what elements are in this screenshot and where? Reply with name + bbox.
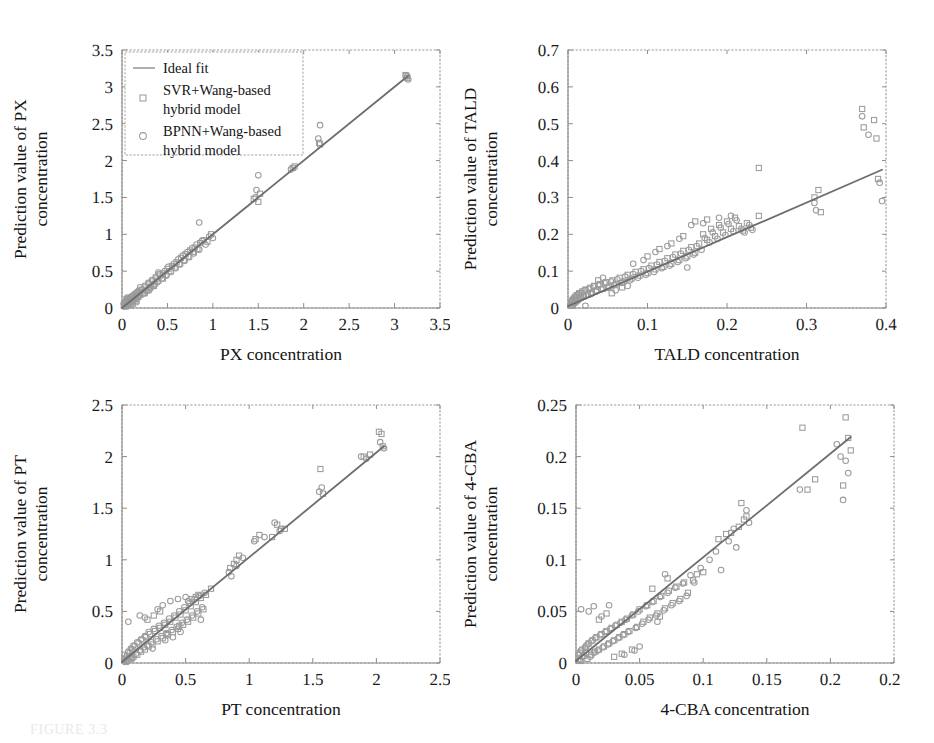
y-tick-label: 0.5 [92,602,113,621]
x-tick-label: 1 [209,315,218,334]
x-tick-label: 0.5 [157,315,178,334]
data-point [691,580,697,586]
data-point [716,215,722,221]
axis-lines [568,50,886,308]
data-point [841,483,846,488]
data-point [591,603,597,609]
y-axis-title-line: Prediction value of PX [10,99,30,259]
y-tick-label: 0.15 [537,499,567,518]
y-tick-label: 0.25 [537,396,567,415]
data-point [646,617,652,623]
y-tick-label: 1.5 [92,499,113,518]
x-tick-label: 0.5 [175,670,196,689]
y-tick-label: 2 [105,448,114,467]
data-point [317,122,323,128]
y-tick-label: 0.1 [538,262,559,281]
data-point [319,485,325,491]
scatter-plot-4cba: 00.050.10.150.20.2500.050.10.150.20.254-… [450,375,900,730]
y-tick-label: 0.6 [538,78,559,97]
y-axis-title-line: concentration [31,131,51,226]
data-point [199,604,205,610]
data-point [812,200,818,206]
data-point [838,454,844,460]
y-tick-label: 0.5 [538,115,559,134]
x-tick-label: 2.5 [429,670,450,689]
data-point [240,555,246,561]
data-point [861,125,866,130]
data-point [845,470,851,476]
ideal-fit-line [576,437,851,661]
data-point [653,613,659,619]
x-tick-label: 0.1 [693,670,714,689]
legend-label-ideal-fit: Ideal fit [163,60,209,76]
data-point [175,596,181,602]
y-tick-label: 0.2 [538,225,559,244]
data-point [733,545,739,551]
data-point [198,617,204,623]
data-point [251,538,257,544]
figure-caption: FIGURE 3.3 [30,722,108,738]
x-tick-label: 2 [372,670,381,689]
data-point [625,283,631,289]
data-point [151,613,156,618]
data-point [805,487,810,492]
y-tick-label: 2 [105,152,114,171]
data-point [866,132,872,138]
x-axis-title: TALD concentration [655,344,800,364]
data-point [813,477,818,482]
y-tick-label: 1 [105,551,114,570]
x-tick-label: 0 [118,670,127,689]
y-tick-label: 0.3 [538,188,559,207]
x-tick-label: 2 [299,315,308,334]
x-tick-label: 0.3 [796,315,817,334]
y-axis-title-line: Prediction value of PT [10,455,30,613]
scatter-plot-pt: 00.511.522.500.511.522.5PT concentration… [0,375,450,730]
y-tick-label: 3.5 [92,41,113,60]
y-tick-label: 0.05 [537,602,567,621]
data-point [169,627,175,633]
y-tick-label: 0 [551,299,560,318]
panel-px: 00.511.522.533.500.511.522.533.5PX conce… [0,20,450,375]
data-point [688,222,694,228]
data-point [716,537,721,542]
y-tick-label: 0.4 [538,152,560,171]
data-point [154,636,160,642]
legend-label-bpnn: BPNN+Wang-based [163,123,282,139]
x-tick-label: 2.5 [339,315,360,334]
data-point [578,607,584,613]
x-axis-title: 4-CBA concentration [660,699,809,719]
panel-4cba: 00.050.10.150.20.2500.050.10.150.20.254-… [450,375,900,730]
legend-label-bpnn-line2: hybrid model [163,142,241,158]
y-tick-label: 2.5 [92,396,113,415]
data-point [840,497,846,503]
scatter-plot-tald: 00.10.20.30.400.10.20.30.40.50.60.7TALD … [450,20,900,375]
data-point [756,213,761,218]
y-tick-label: 1.5 [92,188,113,207]
x-tick-label: 0 [572,670,581,689]
data-point [665,590,671,596]
y-tick-label: 0.5 [92,262,113,281]
data-point [728,213,734,219]
y-axis-title-line: Prediction value of 4-CBA [460,440,480,628]
y-tick-label: 3 [105,78,114,97]
x-tick-label: 0.2 [716,315,737,334]
data-point [637,644,643,650]
data-point [639,621,645,627]
data-point [586,609,592,615]
data-point [661,608,667,614]
y-tick-label: 1 [105,225,114,244]
data-point [630,261,636,267]
data-point [254,187,260,193]
data-point [170,634,176,640]
plot-frame [568,50,886,308]
data-point [707,557,713,563]
panel-tald: 00.10.20.30.400.10.20.30.40.50.60.7TALD … [450,20,900,375]
data-point [126,619,132,625]
data-point [184,617,190,623]
data-point [739,500,744,505]
data-point [874,136,879,141]
x-tick-label: 0 [118,315,127,334]
ideal-fit-line [122,446,384,662]
data-point [655,619,661,625]
data-point [160,602,166,608]
